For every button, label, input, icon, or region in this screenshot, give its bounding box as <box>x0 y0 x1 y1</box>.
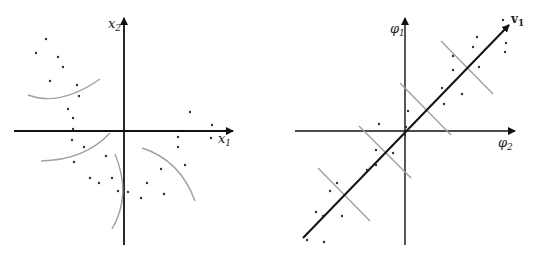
left-panel: x1 x2 <box>14 16 233 245</box>
left-contour-arcs <box>28 79 195 229</box>
right-panel: v1 φ2 φ1 <box>295 12 524 245</box>
x2-axis-label: x2 <box>108 16 121 33</box>
phi2-axis-label: φ2 <box>498 135 513 152</box>
phi1-axis-label: φ1 <box>390 21 405 38</box>
x1-axis-label: x1 <box>218 131 231 148</box>
diagram-canvas: x1 x2 v1 φ2 φ1 <box>0 0 537 254</box>
v1-label: v1 <box>510 12 524 28</box>
